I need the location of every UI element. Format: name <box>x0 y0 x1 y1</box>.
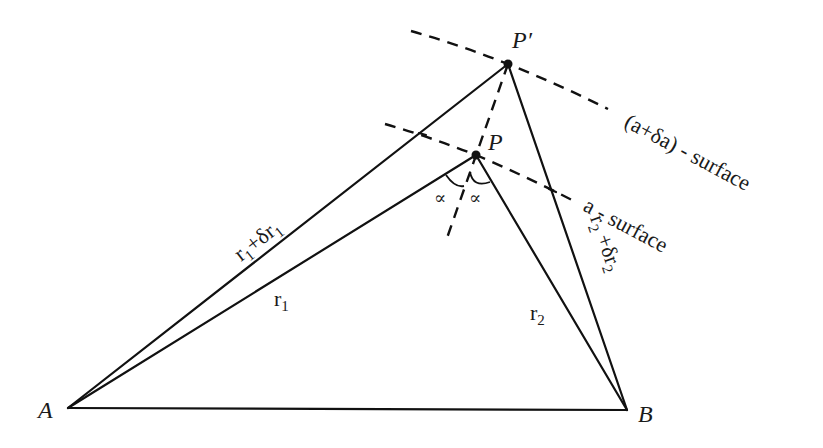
edge-A-Pprime <box>68 64 508 408</box>
r2-sub: 2 <box>537 312 545 328</box>
label-r2: r2 <box>530 300 545 328</box>
label-angle-left: ∝ <box>434 188 446 208</box>
label-Pprime: P′ <box>511 27 533 53</box>
label-outer-surface: (a+δa) - surface <box>621 108 755 195</box>
point-Pprime <box>504 60 513 69</box>
r1-sub: 1 <box>281 298 289 314</box>
point-P <box>472 151 481 160</box>
edge-AB <box>68 408 627 410</box>
tick-mark-right <box>549 189 556 192</box>
label-P: P <box>487 129 503 155</box>
label-r1: r1 <box>274 286 289 314</box>
ellipse-geometry-diagram: A B P P′ ∝ ∝ r1 r2 r1+δr1 r2 +δr2 (a+δa)… <box>0 0 823 448</box>
label-A: A <box>36 397 53 423</box>
tick-mark-left <box>419 133 426 135</box>
label-angle-right: ∝ <box>469 188 481 208</box>
edge-A-P <box>68 155 476 408</box>
label-B: B <box>638 401 653 427</box>
angle-arc-left <box>446 175 464 186</box>
svg-text:(a+δa) - surface: (a+δa) - surface <box>621 108 755 195</box>
